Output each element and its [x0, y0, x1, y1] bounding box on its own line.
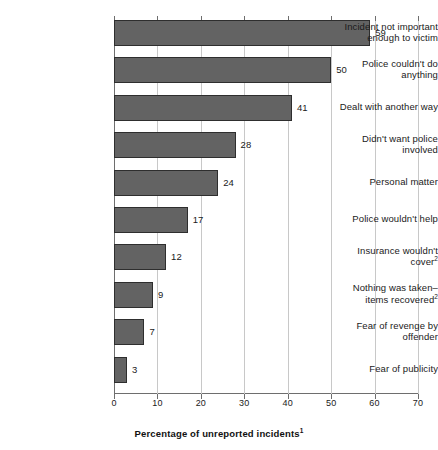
bar-value-label: 12: [166, 244, 182, 270]
category-label: Fear of publicity: [332, 363, 438, 375]
bar: [114, 244, 166, 270]
x-tick-label: 50: [316, 398, 346, 408]
bar-value-label: 28: [236, 132, 252, 158]
category-label-line: Police wouldn't help: [332, 213, 438, 225]
category-label-line: Insurance wouldn't: [332, 245, 438, 257]
category-label-line: enough to victim: [332, 32, 438, 44]
category-label-line: Police couldn't do: [332, 58, 438, 70]
category-label: Didn't want policeinvolved: [332, 133, 438, 156]
bar: [114, 95, 292, 121]
x-tick-label: 0: [99, 398, 129, 408]
category-label-line: Fear of publicity: [332, 363, 438, 375]
category-label: Incident not importantenough to victim: [332, 21, 438, 44]
bar: [114, 132, 236, 158]
bar-value-label: 24: [218, 170, 234, 196]
category-label: Dealt with another way: [332, 101, 438, 113]
x-tick-label: 20: [186, 398, 216, 408]
x-axis-title: Percentage of unreported incidents1: [0, 428, 438, 439]
category-label-line: involved: [332, 144, 438, 156]
x-tick-label: 70: [403, 398, 433, 408]
category-label: Fear of revenge byoffender: [332, 320, 438, 343]
bar-value-label: 3: [127, 357, 137, 383]
bar: [114, 170, 218, 196]
bar: [114, 282, 153, 308]
bar: [114, 207, 188, 233]
x-tick-label: 10: [142, 398, 172, 408]
x-axis-title-footnote: 1: [300, 427, 304, 434]
x-tick-label: 30: [229, 398, 259, 408]
bar: [114, 357, 127, 383]
category-label: Police couldn't doanything: [332, 58, 438, 81]
category-label: Personal matter: [332, 176, 438, 188]
category-label-line: Fear of revenge by: [332, 320, 438, 332]
bar: [114, 57, 331, 83]
x-tick-label: 60: [360, 398, 390, 408]
category-label: Nothing was taken–items recovered2: [332, 282, 438, 305]
category-label-line: Personal matter: [332, 176, 438, 188]
category-label-line: Incident not important: [332, 21, 438, 33]
category-label-line: cover2: [332, 256, 438, 268]
x-tick-label: 40: [273, 398, 303, 408]
bar-value-label: 9: [153, 282, 163, 308]
category-label: Insurance wouldn'tcover2: [332, 245, 438, 268]
category-label-line: Didn't want police: [332, 133, 438, 145]
category-label-line: anything: [332, 69, 438, 81]
category-label-line: Nothing was taken–: [332, 282, 438, 294]
bar-value-label: 41: [292, 95, 308, 121]
bar-value-label: 17: [188, 207, 204, 233]
category-label-line: offender: [332, 331, 438, 343]
category-label-line: Dealt with another way: [332, 101, 438, 113]
bar-chart: 010203040506070 59504128241712973 Incide…: [0, 0, 438, 450]
bar: [114, 319, 144, 345]
category-label-line: items recovered2: [332, 294, 438, 306]
bar-value-label: 7: [144, 319, 154, 345]
category-label: Police wouldn't help: [332, 213, 438, 225]
